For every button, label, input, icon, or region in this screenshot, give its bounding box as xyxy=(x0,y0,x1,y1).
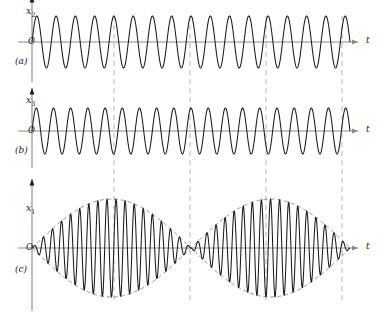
beats-waveform-figure: x2 O (a) t x3 O (b) t x1 O (c) t xyxy=(0,0,382,312)
panel-b-t-axis-arrow xyxy=(352,129,358,134)
panel-a-t-axis-arrow xyxy=(352,40,358,45)
panel-a-y-axis-label: x2 xyxy=(26,6,36,18)
panel-a-x-axis-arrow xyxy=(30,0,35,3)
panel-c-envelope-lower xyxy=(32,248,350,297)
panel-b-x-axis-label: t xyxy=(366,125,370,134)
panel-b-y-axis-label: x3 xyxy=(26,95,36,107)
panel-c-x-axis-arrow xyxy=(30,179,35,186)
panel-a-x-axis-label: t xyxy=(366,36,370,45)
panel-a-id-label: (a) xyxy=(15,57,27,66)
panel-c-x-axis-label: t xyxy=(366,242,370,251)
figure-canvas xyxy=(0,0,382,312)
panel-c-envelope-upper xyxy=(32,199,350,248)
panel-c-t-axis-arrow xyxy=(352,246,358,251)
panel-c-id-label: (c) xyxy=(15,265,27,274)
panel-a-origin-label: O xyxy=(28,37,35,46)
panel-c-origin-label: O xyxy=(26,243,33,252)
panel-c-y-axis-label: x1 xyxy=(26,203,36,215)
panel-b-origin-label: O xyxy=(28,126,35,135)
panel-b-id-label: (b) xyxy=(15,146,28,155)
